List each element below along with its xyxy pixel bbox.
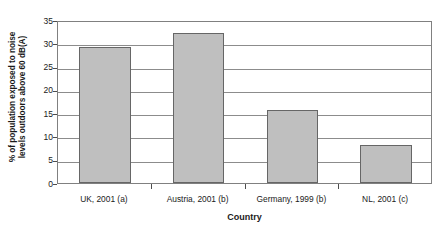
bars — [58, 22, 431, 183]
bar — [360, 145, 412, 183]
x-axis-tick-mark — [338, 184, 339, 189]
y-axis-tick-mark — [53, 114, 57, 115]
y-axis-tick-label: 0 — [31, 180, 53, 189]
x-axis-title: Country — [57, 212, 432, 222]
y-axis-tick-label: 30 — [31, 40, 53, 49]
y-axis-tick-mark — [53, 21, 57, 22]
y-axis-tick-mark — [53, 161, 57, 162]
x-axis-tick-mark — [151, 184, 152, 189]
y-axis-tick-mark — [53, 91, 57, 92]
bar-slot — [58, 22, 152, 183]
y-axis-tick-label: 25 — [31, 63, 53, 72]
bar-slot — [152, 22, 246, 183]
y-axis-tick-label: 20 — [31, 86, 53, 95]
bar — [173, 33, 225, 183]
y-axis-tick-mark — [53, 184, 57, 185]
y-axis-tick-label: 10 — [31, 133, 53, 142]
y-axis-tick-label: 15 — [31, 110, 53, 119]
y-axis-tick-mark — [53, 68, 57, 69]
bar — [267, 110, 319, 183]
x-axis-tick-label: Germany, 1999 (b) — [245, 194, 339, 204]
y-axis-tick-mark — [53, 44, 57, 45]
plot-area — [57, 21, 432, 184]
x-axis-tick-mark — [245, 184, 246, 189]
bar-chart-figure: % of population exposed to noise levels … — [0, 0, 444, 232]
bar-slot — [246, 22, 340, 183]
y-axis-title-line-1: % of population exposed to noise — [7, 32, 18, 163]
bar-slot — [339, 22, 433, 183]
x-axis-tick-label: Austria, 2001 (b) — [151, 194, 245, 204]
x-axis-tick-label: NL, 2001 (c) — [338, 194, 432, 204]
y-axis-tick-labels: 05101520253035 — [28, 0, 53, 232]
bar — [79, 47, 131, 183]
y-axis-tick-label: 35 — [31, 17, 53, 26]
y-axis-tick-label: 5 — [31, 156, 53, 165]
x-axis-tick-label: UK, 2001 (a) — [57, 194, 151, 204]
y-axis-tick-mark — [53, 137, 57, 138]
y-axis-title-line-2: levels outdoors above 60 dB(A) — [17, 36, 28, 159]
